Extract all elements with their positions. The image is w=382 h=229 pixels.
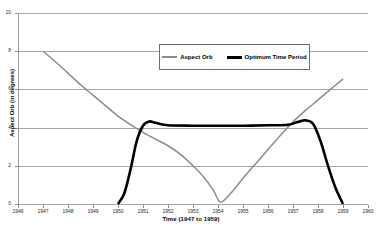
x-tick-label: 1957	[280, 208, 306, 214]
y-tick-label: 2	[0, 163, 11, 168]
x-tick-label: 1950	[105, 208, 131, 214]
x-tick-label: 1948	[55, 208, 81, 214]
plot-area	[18, 13, 368, 205]
x-tick-label: 1947	[30, 208, 56, 214]
x-tick-label: 1956	[255, 208, 281, 214]
chart-container: 0246810 19461947194819491950195119521953…	[0, 0, 382, 229]
x-axis-title: Time (1947 to 1959)	[0, 216, 382, 222]
y-tick-mark	[15, 128, 18, 129]
legend-line-icon-optimum-time-period	[227, 56, 242, 59]
y-tick-mark	[15, 51, 18, 52]
legend-entry-optimum-time-period: Optimum Time Period	[227, 54, 307, 60]
legend-label-aspect-orb: Aspect Orb	[180, 54, 212, 60]
gridline	[18, 89, 368, 90]
legend-line-icon-aspect-orb	[162, 56, 177, 58]
x-tick-label: 1960	[355, 208, 381, 214]
legend-entry-aspect-orb: Aspect Orb	[162, 54, 212, 60]
legend-label-optimum-time-period: Optimum Time Period	[245, 54, 307, 60]
y-tick-mark	[15, 89, 18, 90]
x-tick-label: 1954	[205, 208, 231, 214]
gridline	[18, 166, 368, 167]
x-tick-label: 1958	[305, 208, 331, 214]
x-tick-label: 1953	[180, 208, 206, 214]
y-tick-label: 0	[0, 201, 11, 206]
y-tick-label: 10	[0, 10, 11, 15]
x-tick-label: 1952	[155, 208, 181, 214]
gridline	[18, 128, 368, 129]
chart-legend: Aspect Orb Optimum Time Period	[159, 44, 310, 70]
y-tick-mark	[15, 13, 18, 14]
y-tick-mark	[15, 166, 18, 167]
x-tick-label: 1959	[330, 208, 356, 214]
x-tick-label: 1949	[80, 208, 106, 214]
x-tick-label: 1955	[230, 208, 256, 214]
x-tick-label: 1946	[5, 208, 31, 214]
gridline	[18, 13, 368, 14]
x-tick-label: 1951	[130, 208, 156, 214]
y-axis-title: Aspect Orb (in degrees)	[9, 48, 15, 158]
